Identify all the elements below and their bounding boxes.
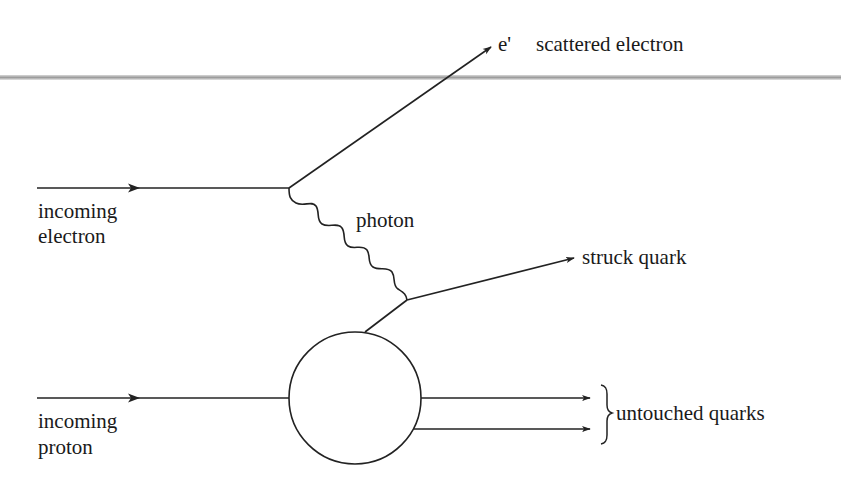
incoming-proton-label-line2: proton [38,435,93,459]
incoming-electron-label-line2: electron [38,224,106,248]
divider-bar [0,75,841,80]
proton-circle [289,332,421,464]
brace-icon [601,385,612,444]
quark-from-proton-line [365,300,407,332]
incoming-electron-line [37,184,289,193]
photon-wavy-line [289,188,407,300]
feynman-diagram: e' scattered electron incoming electron … [0,0,841,483]
struck-quark-line [407,258,574,300]
scattered-symbol-label: e' [498,32,511,56]
untouched-quarks-label: untouched quarks [616,401,765,425]
incoming-electron-label-line1: incoming [38,199,118,223]
incoming-proton-line [37,394,289,403]
scattered-electron-line [289,47,491,188]
struck-quark-label: struck quark [582,245,687,269]
photon-label: photon [356,208,415,232]
incoming-proton-label-line1: incoming [38,409,118,433]
scattered-electron-label: scattered electron [536,32,684,56]
